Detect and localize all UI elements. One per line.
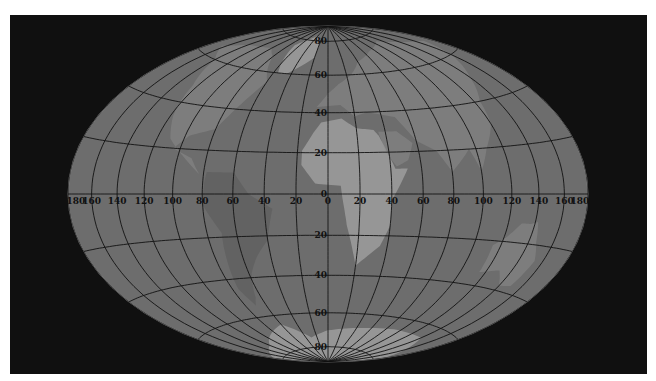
latitude-label: 20 [314,230,327,240]
latitude-label: 40 [314,270,327,280]
longitude-label: 100 [474,196,493,206]
latitude-label: 60 [314,308,327,318]
latitude-label: 80 [314,36,327,46]
longitude-label: 40 [386,196,399,206]
latitude-label: 40 [314,108,327,118]
longitude-label: 120 [135,196,154,206]
latitude-label: 20 [314,148,327,158]
longitude-label: 140 [108,196,127,206]
longitude-labels: 1801601401201008060402002040608010012014… [67,196,590,206]
longitude-label: 80 [196,196,209,206]
longitude-label: 60 [417,196,430,206]
longitude-label: 140 [530,196,549,206]
longitude-label: 80 [448,196,461,206]
latitude-label: 0 [321,189,327,199]
world-map[interactable]: 1801601401201008060402002040608010012014… [0,0,656,381]
latitude-label: 60 [314,70,327,80]
longitude-label: 20 [290,196,303,206]
longitude-label: 120 [502,196,521,206]
longitude-label: 60 [227,196,240,206]
longitude-label: 40 [258,196,271,206]
latitude-label: 80 [314,342,327,352]
longitude-label: 180 [571,196,590,206]
longitude-label: 160 [82,196,101,206]
longitude-label: 100 [163,196,182,206]
longitude-label: 20 [354,196,367,206]
